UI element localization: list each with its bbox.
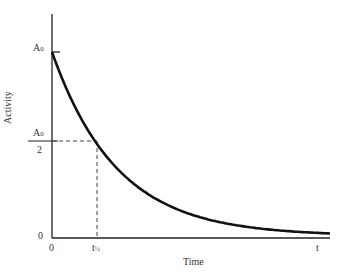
y-label-half-denominator: 2 [37, 144, 42, 155]
decay-chart [0, 0, 340, 276]
y-label-half-numerator: A0 [33, 127, 44, 138]
x-label-t: t [316, 242, 319, 253]
x-label-zero: 0 [49, 242, 54, 253]
y-label-zero: 0 [38, 230, 43, 241]
y-label-a0: A0 [33, 42, 44, 53]
x-axis-title: Time [183, 256, 204, 267]
x-label-half-life: t½ [92, 242, 100, 253]
y-axis-title: Activity [2, 91, 13, 124]
decay-curve [52, 52, 330, 234]
